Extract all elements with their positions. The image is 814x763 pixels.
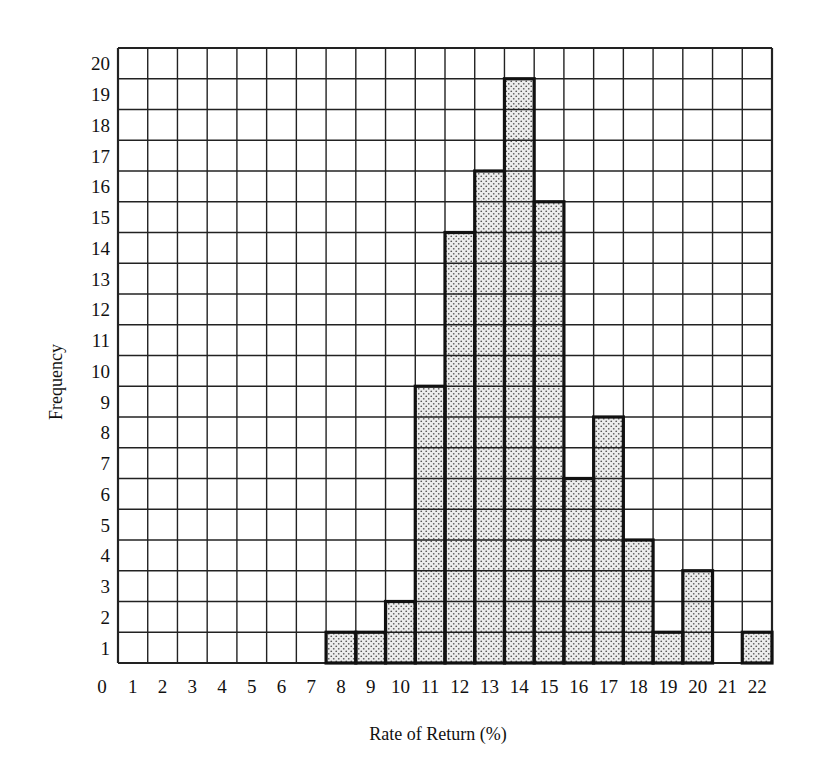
bar-20 (683, 571, 713, 663)
x-tick-label: 12 (450, 676, 469, 697)
bar-14 (504, 79, 534, 663)
bar-8 (326, 632, 356, 663)
y-tick-label: 11 (92, 330, 110, 351)
y-tick-label: 9 (101, 392, 111, 413)
x-tick-label: 10 (391, 676, 410, 697)
x-tick-label: 7 (306, 676, 316, 697)
x-tick-label: 16 (569, 676, 588, 697)
x-tick-label: 20 (688, 676, 707, 697)
x-tick-label: 0 (97, 676, 107, 697)
y-tick-label: 1 (101, 638, 111, 659)
x-tick-label: 3 (188, 676, 198, 697)
y-axis-label: Frequency (46, 344, 66, 420)
y-tick-label: 10 (91, 361, 110, 382)
x-tick-label: 18 (629, 676, 648, 697)
x-tick-label: 19 (658, 676, 677, 697)
y-tick-label: 4 (101, 545, 111, 566)
y-tick-label: 7 (101, 453, 111, 474)
x-tick-label: 14 (510, 676, 530, 697)
x-tick-label: 13 (480, 676, 499, 697)
x-tick-label: 2 (158, 676, 168, 697)
x-tick-label: 11 (421, 676, 439, 697)
x-axis-label: Rate of Return (%) (369, 724, 506, 745)
x-tick-label: 22 (748, 676, 767, 697)
y-tick-label: 6 (101, 484, 111, 505)
bar-15 (534, 202, 564, 663)
histogram-bars (326, 79, 772, 663)
y-tick-label: 12 (91, 299, 110, 320)
y-tick-label: 15 (91, 207, 110, 228)
x-tick-label: 15 (540, 676, 559, 697)
y-tick-label: 5 (101, 515, 111, 536)
x-tick-label: 5 (247, 676, 257, 697)
x-tick-label: 6 (277, 676, 287, 697)
y-tick-label: 17 (91, 146, 110, 167)
y-tick-label: 14 (91, 238, 111, 259)
bar-19 (653, 632, 683, 663)
y-tick-label: 2 (101, 607, 111, 628)
bar-9 (356, 632, 386, 663)
y-axis-ticks: 1234567891011121314151617181920 (91, 53, 111, 658)
x-tick-label: 9 (366, 676, 376, 697)
x-tick-label: 8 (336, 676, 346, 697)
y-tick-label: 3 (101, 576, 111, 597)
bar-22 (742, 632, 772, 663)
y-tick-label: 18 (91, 115, 110, 136)
x-tick-label: 4 (217, 676, 227, 697)
y-tick-label: 13 (91, 269, 110, 290)
x-tick-label: 21 (718, 676, 737, 697)
histogram-chart: 1234567891011121314151617181920 01234567… (0, 0, 814, 763)
y-tick-label: 8 (101, 422, 111, 443)
y-tick-label: 20 (91, 53, 110, 74)
x-tick-label: 17 (599, 676, 618, 697)
x-tick-label: 1 (128, 676, 138, 697)
y-tick-label: 19 (91, 84, 110, 105)
x-axis-ticks: 012345678910111213141516171819202122 (97, 676, 766, 697)
y-tick-label: 16 (91, 176, 110, 197)
bar-11 (415, 386, 445, 663)
